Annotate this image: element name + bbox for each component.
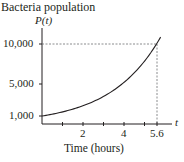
dashed-guides <box>42 44 157 124</box>
y-tick-label: 5,000 <box>9 77 34 89</box>
y-tick-label: 10,000 <box>3 37 33 49</box>
x-tick-label: 4 <box>121 127 127 139</box>
x-axis-symbol: t <box>175 116 178 128</box>
population-curve <box>42 37 161 116</box>
y-tick-label: 1,000 <box>9 109 34 121</box>
x-axis-label: Time (hours) <box>64 142 124 154</box>
x-tick-label: 2 <box>80 127 86 139</box>
x-tick-label: 5.6 <box>150 127 164 139</box>
